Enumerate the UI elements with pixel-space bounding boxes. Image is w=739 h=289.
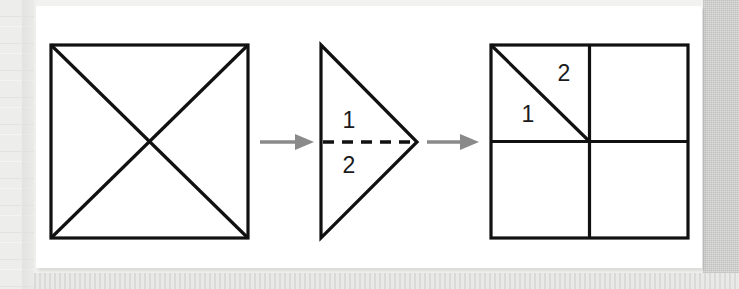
quadrant-label-1: 1 <box>522 101 535 127</box>
screenshot-root: 1 2 2 1 <box>0 0 739 289</box>
scanned-page-bottom-edge-texture <box>34 273 739 289</box>
arrow-head-2 <box>460 134 479 150</box>
arrow-step2-to-step3 <box>427 134 479 150</box>
paper-folding-diagram: 1 2 2 1 <box>36 6 702 268</box>
arrow-head-1 <box>295 134 314 150</box>
arrow-step1-to-step2 <box>260 134 314 150</box>
scanned-page-right-edge-texture <box>703 0 739 289</box>
quadrant-label-2: 2 <box>558 60 571 86</box>
shape-square-with-diagonals <box>51 45 248 238</box>
shape-unfolded-quadrants: 2 1 <box>491 45 688 238</box>
shape-folded-triangle: 1 2 <box>321 45 417 238</box>
triangle-region-label-2: 2 <box>343 152 356 178</box>
figure-panel: 1 2 2 1 <box>36 6 702 268</box>
triangle-region-label-1: 1 <box>343 107 356 133</box>
